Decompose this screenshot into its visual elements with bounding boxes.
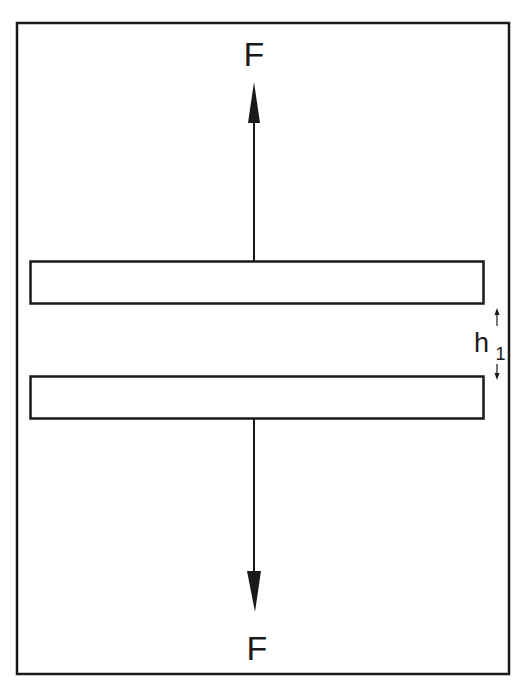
diagram-frame [17,23,509,674]
arrow-down-icon [247,571,261,612]
top-plate [31,262,484,304]
small-arrow-down-icon [495,373,500,380]
bottom-plate [31,377,484,419]
tensile-plates-diagram: F F h 1 [0,0,531,694]
gap-label-subscript: 1 [496,344,506,364]
bottom-force-arrow [247,419,261,612]
bottom-force-label: F [247,629,268,667]
arrow-up-icon [248,82,260,123]
small-arrow-up-icon [495,308,500,315]
gap-label-main: h [474,328,489,358]
top-force-label: F [244,35,265,73]
gap-label: h 1 [474,328,506,364]
top-force-arrow [248,82,260,261]
